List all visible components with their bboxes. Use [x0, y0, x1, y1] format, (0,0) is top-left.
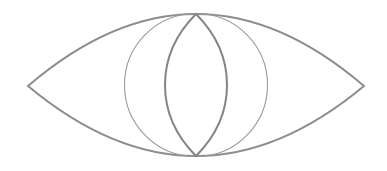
outer-lens-shape [28, 14, 364, 156]
inscribed-circle [125, 14, 268, 157]
inner-vertical-lens [165, 14, 227, 156]
diagram-canvas [0, 0, 387, 171]
eye-diagram [0, 0, 387, 171]
